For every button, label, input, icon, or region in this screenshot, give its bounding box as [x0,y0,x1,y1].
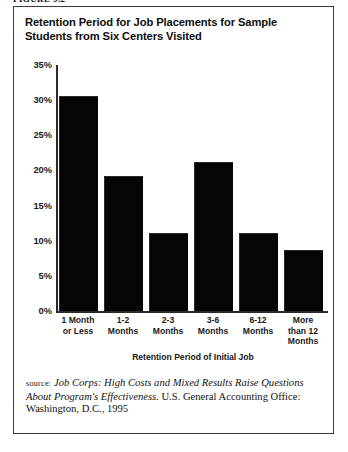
x-axis-category-line: 2-3 [146,315,190,326]
bar-slot [103,65,143,311]
x-axis-line [56,311,328,313]
y-axis-tick-20: 20% [33,165,52,175]
y-axis-tick-25: 25% [33,130,52,140]
figure-label: Figure 9.2 [13,0,66,4]
x-axis-category-labels: 1 Monthor Less1-2Months2-3Months3-6Month… [58,315,330,355]
x-axis-category-line: Months [146,326,190,337]
x-axis-category-label: Morethan 12Months [281,315,325,347]
x-axis-title: Retention Period of Initial Job [56,352,330,362]
y-axis-tick-0: 0% [39,306,52,316]
y-axis-tick-15: 15% [33,201,52,211]
x-axis-category-line: or Less [56,326,100,337]
x-axis-category-label: 1 Monthor Less [56,315,100,336]
x-axis-category-label: 6-12Months [236,315,280,336]
y-axis-tick-30: 30% [33,95,52,105]
x-axis-category-label: 2-3Months [146,315,190,336]
source-divider [25,369,323,370]
x-axis-category-line: Months [281,336,325,347]
y-axis-tick-10: 10% [33,236,52,246]
x-axis-category-line: Months [101,326,145,337]
figure-page: Figure 9.2 Retention Period for Job Plac… [0,0,348,452]
bar-slot [238,65,278,311]
bar[interactable] [104,176,143,311]
x-axis-category-line: than 12 [281,326,325,337]
bar-slot [193,65,233,311]
x-axis-category-line: Months [236,326,280,337]
figure-frame: Retention Period for Job Placements for … [13,6,334,434]
bar-slot [148,65,188,311]
x-axis-category-line: 6-12 [236,315,280,326]
plot-area: 0%5%10%15%20%25%30%35% 1 Monthor Less1-2… [14,55,332,367]
bar-slot [58,65,98,311]
bar-series [58,65,328,311]
x-axis-category-line: Months [191,326,235,337]
source-note: source: Job Corps: High Costs and Mixed … [26,377,322,416]
y-axis-tick-labels: 0%5%10%15%20%25%30%35% [14,55,56,367]
chart-title-line-2: Six Centers Visited [103,30,202,42]
source-prefix: source: [26,379,51,388]
bar[interactable] [59,96,98,311]
bar[interactable] [194,162,233,311]
bar[interactable] [284,250,323,311]
bar[interactable] [149,233,188,311]
y-axis-tick-35: 35% [33,60,52,70]
x-axis-category-line: 1-2 [101,315,145,326]
x-axis-category-label: 1-2Months [101,315,145,336]
y-axis-tick-5: 5% [39,271,52,281]
x-axis-category-line: 1 Month [56,315,100,326]
chart-title: Retention Period for Job Placements for … [25,15,321,43]
x-axis-category-line: 3-6 [191,315,235,326]
bar[interactable] [239,233,278,311]
x-axis-category-label: 3-6Months [191,315,235,336]
bar-slot [283,65,323,311]
x-axis-category-line: More [281,315,325,326]
